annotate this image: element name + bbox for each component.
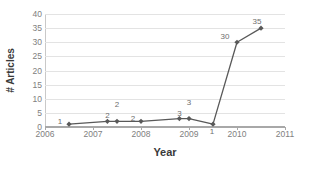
y-tick-label: 30 [16,38,42,47]
data-point-label: 30 [221,33,230,41]
data-point-label: 2 [115,101,119,109]
x-tick-label: 2008 [132,130,151,139]
data-point-marker [210,122,215,127]
data-point-marker [114,119,119,124]
y-tick-label: 25 [16,52,42,61]
data-point-label: 2 [131,115,135,123]
plot-area: 12223313035 [45,14,285,127]
y-tick-label: 10 [16,95,42,104]
data-point-label: 1 [58,118,62,126]
x-tick-label: 2009 [180,130,199,139]
data-point-marker [66,122,71,127]
x-axis-tick-labels: 200620072008200920102011 [45,130,285,142]
line-chart: # Articles 0510152025303540 12223313035 … [0,0,330,169]
x-axis-title: Year [0,146,330,158]
series-line [45,14,285,127]
x-tick-label: 2011 [276,130,294,139]
x-tick-label: 2006 [36,130,55,139]
data-point-label: 2 [105,112,109,120]
y-tick-label: 20 [16,66,42,75]
data-point-label: 35 [253,18,262,26]
data-point-marker [138,119,143,124]
y-tick-label: 40 [16,10,42,19]
y-tick-label: 35 [16,24,42,33]
y-tick-label: 5 [16,109,42,118]
x-tick-label: 2010 [228,130,247,139]
x-tick-label: 2007 [84,130,103,139]
gridline [45,127,285,128]
y-tick-label: 15 [16,80,42,89]
data-point-label: 3 [187,99,191,107]
data-point-marker [186,116,191,121]
y-axis-tick-labels: 0510152025303540 [14,0,42,140]
data-point-label: 3 [177,110,181,118]
